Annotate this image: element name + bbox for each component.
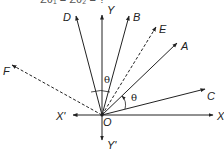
ray-label-c: C bbox=[207, 90, 215, 102]
ray-f bbox=[12, 65, 102, 115]
ray-label-y: Y bbox=[107, 4, 115, 16]
cutoff-header-text: Σθ₁ = Σθ₂ = ? bbox=[40, 0, 105, 5]
ray-label-x-prime: X' bbox=[55, 110, 66, 122]
theta-label-top: θ bbox=[104, 74, 110, 85]
ray-d bbox=[76, 16, 102, 115]
ray-label-a: A bbox=[180, 40, 188, 52]
labels-group: YDBEACXX'FY' bbox=[3, 4, 224, 151]
angle-diagram: Σθ₁ = Σθ₂ = ? YDBEACXX'FY' O θ θ bbox=[0, 0, 224, 152]
ray-label-b: B bbox=[133, 11, 140, 23]
ray-label-d: D bbox=[63, 11, 71, 23]
theta-label-right: θ bbox=[131, 92, 137, 103]
ray-label-y-prime: Y' bbox=[107, 139, 117, 151]
ray-label-f: F bbox=[3, 65, 11, 77]
ray-label-e: E bbox=[159, 23, 167, 35]
theta-arc-top bbox=[91, 91, 110, 93]
origin-label: O bbox=[103, 116, 112, 128]
rays-group bbox=[12, 15, 213, 140]
ray-c bbox=[102, 89, 205, 115]
ray-label-x: X bbox=[216, 110, 224, 122]
theta-arc-right bbox=[122, 96, 126, 109]
